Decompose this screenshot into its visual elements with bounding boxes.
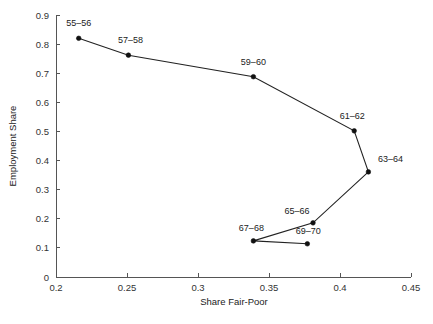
data-point-marker bbox=[305, 242, 310, 247]
y-tick-label: 0.5 bbox=[36, 126, 49, 137]
data-point-marker bbox=[126, 53, 131, 58]
y-tick-label: 0 bbox=[44, 272, 49, 283]
x-tick-label: 0.25 bbox=[118, 282, 137, 293]
data-point-label: 61–62 bbox=[340, 111, 365, 121]
y-tick-label: 0.1 bbox=[36, 242, 49, 253]
x-tick-label: 0.2 bbox=[49, 282, 62, 293]
data-point-marker bbox=[76, 36, 81, 41]
y-tick-label: 0.2 bbox=[36, 213, 49, 224]
data-point-marker bbox=[251, 74, 256, 79]
data-point-marker bbox=[311, 221, 316, 226]
x-tick-label: 0.4 bbox=[333, 282, 346, 293]
data-point-marker bbox=[251, 239, 256, 244]
x-axis-title: Share Fair-Poor bbox=[200, 296, 268, 307]
data-point-label: 59–60 bbox=[241, 57, 266, 67]
data-point-label: 69–70 bbox=[296, 226, 321, 236]
data-point-label: 55–56 bbox=[66, 18, 91, 28]
data-point-label: 67–68 bbox=[239, 223, 264, 233]
x-tick-label: 0.3 bbox=[191, 282, 204, 293]
y-tick-label: 0.3 bbox=[36, 184, 49, 195]
data-point-label: 57–58 bbox=[118, 35, 143, 45]
chart-container: 0.20.250.30.350.40.45 00.10.20.30.40.50.… bbox=[0, 0, 433, 324]
y-axis-title: Employment Share bbox=[7, 106, 18, 187]
y-tick-label: 0.6 bbox=[36, 97, 49, 108]
x-tick-group: 0.20.250.30.350.40.45 bbox=[49, 273, 420, 293]
series-polyline bbox=[79, 38, 369, 244]
axes-group bbox=[56, 15, 411, 277]
series-group bbox=[76, 36, 370, 246]
y-tick-label: 0.9 bbox=[36, 10, 49, 21]
data-point-marker bbox=[352, 129, 357, 134]
data-point-marker bbox=[366, 170, 371, 175]
data-point-label: 65–66 bbox=[285, 206, 310, 216]
x-tick-label: 0.45 bbox=[402, 282, 421, 293]
data-point-label: 63–64 bbox=[378, 154, 403, 164]
chart-plot: 0.20.250.30.350.40.45 00.10.20.30.40.50.… bbox=[0, 0, 433, 324]
y-tick-label: 0.8 bbox=[36, 39, 49, 50]
y-tick-label: 0.4 bbox=[36, 155, 49, 166]
y-tick-label: 0.7 bbox=[36, 68, 49, 79]
x-tick-label: 0.35 bbox=[260, 282, 279, 293]
